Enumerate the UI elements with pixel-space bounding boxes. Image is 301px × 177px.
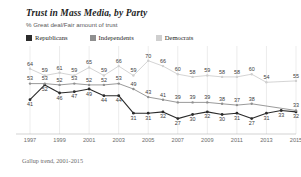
data-label: 27 [175,120,181,126]
data-label: 46 [57,95,63,101]
data-label: 44 [101,97,107,103]
legend-item-independents[interactable]: Independents [90,34,134,41]
data-label: 52 [86,77,92,83]
data-label: 65 [86,59,92,65]
data-point [29,68,31,70]
data-point [295,109,297,111]
data-label: 41 [160,92,166,98]
series-line-democrats [30,61,296,83]
data-point [177,73,179,75]
data-label: 32 [293,113,299,119]
legend-item-democrats[interactable]: Democrats [156,34,194,41]
data-label: 58 [234,69,240,75]
data-label: 59 [204,67,210,73]
data-label: 37 [234,97,240,103]
data-point [58,84,60,86]
x-tick-label: 1999 [53,137,65,143]
legend-label-republicans: Republicans [35,34,68,41]
data-label: 39 [204,94,210,100]
x-tick-label: 2011 [231,137,243,143]
data-label: 61 [57,65,63,71]
data-label: 60 [249,66,255,72]
data-point [29,82,31,84]
x-tick-label: 2007 [172,137,184,143]
data-label: 52 [57,77,63,83]
x-tick-label: 2001 [83,137,95,143]
data-point [147,96,149,98]
data-label: 31 [145,115,151,121]
data-label: 39 [190,94,196,100]
data-point [73,82,75,84]
data-label: 49 [86,91,92,97]
data-label: 39 [175,94,181,100]
chart-card: Trust in Mass Media, by Party % Great de… [0,0,301,177]
data-labels-layer: 4152464749444431313227303230312731333253… [27,53,299,127]
data-point [265,81,267,83]
data-label: 41 [27,101,33,107]
data-label: 52 [101,77,107,83]
data-label: 33 [278,112,284,118]
data-point [88,66,90,68]
data-point [221,76,223,78]
x-tick-label: 2013 [260,137,272,143]
data-label: 59 [42,67,48,73]
data-label: 64 [27,61,33,67]
data-point [162,65,164,67]
data-label: 54 [263,74,269,80]
data-label: 31 [263,115,269,121]
chart-subtitle: % Great deal/Fair amount of trust [26,21,293,28]
data-label: 53 [27,75,33,81]
data-point [191,101,193,103]
x-tick-label: 2003 [112,137,124,143]
data-point [236,76,238,78]
data-point [118,82,120,84]
data-label: 60 [175,66,181,72]
data-label: 31 [234,115,240,121]
chart-title: Trust in Mass Media, by Party [26,8,293,18]
data-point [177,101,179,103]
data-label: 31 [130,115,136,121]
data-label: 27 [249,120,255,126]
data-label: 32 [204,113,210,119]
data-label: 70 [145,53,151,59]
chart-svg: 4152464749444431313227303230312731333253… [0,44,301,136]
data-point [132,74,134,76]
data-label: 59 [130,67,136,73]
data-label: 58 [219,69,225,75]
data-label: 58 [190,69,196,75]
data-point [162,99,164,101]
data-point [88,84,90,86]
legend-item-republicans[interactable]: Republicans [26,34,68,41]
data-label: 44 [116,97,122,103]
data-label: 59 [71,67,77,73]
data-point [221,103,223,105]
data-point [206,74,208,76]
data-point [147,60,149,62]
data-label: 32 [160,113,166,119]
data-label: 33 [293,102,299,108]
data-label: 38 [249,96,255,102]
x-axis-labels: 1997199920012003200520072009201120132015 [0,136,301,148]
data-label: 47 [71,93,77,99]
data-label: 53 [42,75,48,81]
series-layer [29,60,298,121]
data-label: 59 [101,67,107,73]
data-label: 49 [130,81,136,87]
data-label: 38 [219,96,225,102]
x-tick-label: 2009 [201,137,213,143]
legend-label-independents: Independents [99,34,134,41]
x-tick-label: 1997 [24,137,36,143]
data-point [295,80,297,82]
data-label: 53 [116,75,122,81]
data-label: 55 [293,73,299,79]
data-point [206,101,208,103]
data-point [118,65,120,67]
data-label: 30 [190,116,196,122]
legend-label-democrats: Democrats [165,34,194,41]
data-label: 53 [71,75,77,81]
legend-swatch-republicans [26,35,32,41]
data-point [58,72,60,74]
data-label: 66 [116,58,122,64]
data-point [44,82,46,84]
chart-legend: Republicans Independents Democrats [26,34,293,41]
